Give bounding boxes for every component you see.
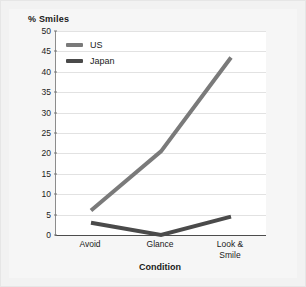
y-tick-mark xyxy=(54,71,57,72)
x-tick-label: Look &Smile xyxy=(190,239,270,261)
series-line-japan xyxy=(91,217,231,235)
y-tick-mark xyxy=(54,173,57,174)
y-tick-label: 10 xyxy=(27,189,51,199)
legend-label: US xyxy=(90,40,103,50)
chart-figure: % Smiles 50454035302520151050 USJapan Av… xyxy=(0,0,306,287)
legend-swatch-icon xyxy=(66,43,83,47)
y-tick-mark xyxy=(54,194,57,195)
y-tick-label: 5 xyxy=(27,210,51,220)
y-tick-mark xyxy=(54,153,57,154)
y-tick-label: 20 xyxy=(27,148,51,158)
chart-legend: USJapan xyxy=(66,40,115,66)
y-tick-mark xyxy=(54,214,57,215)
legend-item-japan: Japan xyxy=(66,56,115,66)
y-tick-label: 15 xyxy=(27,169,51,179)
x-tick-label: Avoid xyxy=(50,239,130,250)
legend-item-us: US xyxy=(66,40,115,50)
y-tick-mark xyxy=(54,235,57,236)
y-tick-label: 40 xyxy=(27,67,51,77)
y-tick-mark xyxy=(54,92,57,93)
x-axis-title: Condition xyxy=(55,262,265,272)
legend-label: Japan xyxy=(90,56,115,66)
y-tick-mark xyxy=(54,133,57,134)
y-tick-mark xyxy=(54,51,57,52)
x-tick-label: Glance xyxy=(120,239,200,250)
y-tick-label: 50 xyxy=(27,26,51,36)
y-tick-label: 25 xyxy=(27,128,51,138)
series-line-us xyxy=(91,58,231,211)
y-tick-mark xyxy=(54,112,57,113)
y-tick-label: 45 xyxy=(27,46,51,56)
y-tick-label: 35 xyxy=(27,87,51,97)
y-axis-title: % Smiles xyxy=(28,14,69,24)
y-tick-mark xyxy=(54,31,57,32)
legend-swatch-icon xyxy=(66,59,83,63)
y-axis-tick-labels: 50454035302520151050 xyxy=(25,31,51,235)
y-tick-label: 0 xyxy=(27,230,51,240)
y-tick-label: 30 xyxy=(27,108,51,118)
